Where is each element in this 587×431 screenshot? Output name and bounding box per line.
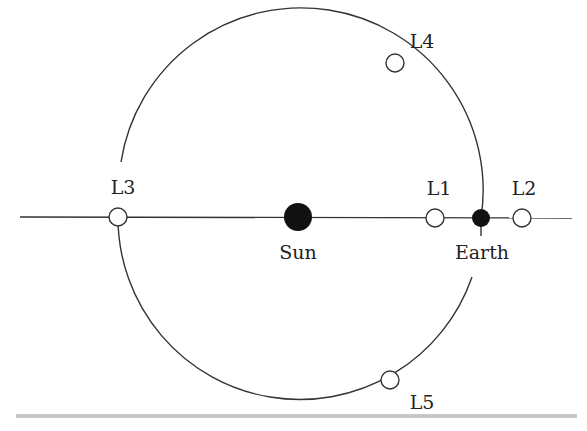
l5-label: L5 [410,391,435,413]
l4-label: L4 [410,30,435,52]
l2-point-icon [513,209,531,227]
l2-label: L2 [512,177,537,199]
lagrange-diagram: Sun Earth L1 L2 L3 L4 L5 [0,0,587,431]
earth-label: Earth [455,241,509,263]
l1-label: L1 [427,177,452,199]
sun-icon [284,203,312,231]
l3-label: L3 [111,176,136,198]
bottom-rule [16,414,577,418]
l1-point-icon [426,209,444,227]
earth-icon [472,209,490,227]
l4-point-icon [386,54,404,72]
l5-point-icon [381,371,399,389]
sun-label: Sun [279,241,317,263]
l3-point-icon [109,208,127,226]
